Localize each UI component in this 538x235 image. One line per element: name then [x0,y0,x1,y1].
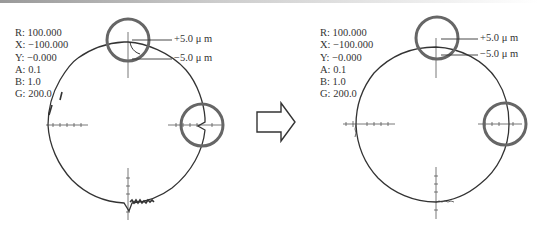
crosshair-left [46,123,88,127]
highlight-circle-top-after [416,17,458,59]
parameter-list-before: R: 100.000 X: −100.000 Y: −0.000 A: 0.1 … [15,27,68,101]
parameter-list-after: R: 100.000 X: −100.000 Y: −0.000 A: 0.1 … [320,27,373,101]
param-b: B: 1.0 [320,76,373,88]
param-y: Y: −0.000 [15,52,68,64]
param-a: A: 0.1 [15,64,68,76]
before-panel [46,19,223,220]
right-arrow-outline-icon [257,103,295,141]
trace-roughness-after [355,125,454,202]
param-b: B: 1.0 [15,76,68,88]
param-g: G: 200.0 [320,88,373,100]
scale-plus-label-after: +5.0 μ m [480,32,518,43]
param-x: X: −100.000 [320,39,373,51]
scale-plus-label: +5.0 μ m [174,33,212,44]
crosshair-bottom-after [434,167,438,219]
roundness-trace-after [356,47,509,202]
param-a: A: 0.1 [320,64,373,76]
scale-leaders-after [441,39,478,55]
param-y: Y: −0.000 [320,52,373,64]
crosshair-left-after [343,121,395,127]
param-g: G: 200.0 [15,88,68,100]
scale-minus-label: −5.0 μ m [174,52,212,63]
param-r: R: 100.000 [320,27,373,39]
roundness-diagram [0,0,538,235]
scale-minus-label-after: −5.0 μ m [480,48,518,59]
crosshair-right [168,123,222,127]
param-x: X: −100.000 [15,39,68,51]
param-r: R: 100.000 [15,27,68,39]
crosshair-bottom [126,168,130,220]
